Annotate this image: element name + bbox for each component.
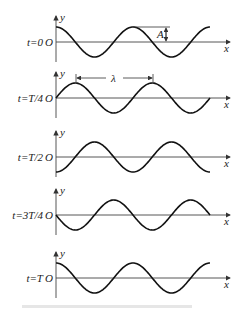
x-axis-label: x <box>223 278 229 290</box>
origin-label: O <box>45 209 53 221</box>
y-axis-label: y <box>59 11 65 23</box>
x-axis-label: x <box>223 157 229 169</box>
y-axis-label: y <box>59 67 65 79</box>
time-label: t=T <box>26 272 43 284</box>
x-axis-label: x <box>223 215 229 227</box>
y-axis-label: y <box>59 184 65 196</box>
origin-label: O <box>45 272 53 284</box>
wave-diagram: yxOt=0yxOt=T/4yxOt=T/2yxOt=3T/4yxOt=TAλ <box>0 0 243 316</box>
origin-label: O <box>45 92 53 104</box>
time-label: t=T/4 <box>18 92 44 104</box>
y-axis-label: y <box>59 126 65 138</box>
x-axis-label: x <box>223 42 229 54</box>
x-axis-label: x <box>223 98 229 110</box>
time-label: t=3T/4 <box>12 209 43 221</box>
wavelength-label: λ <box>110 72 116 84</box>
time-label: t=0 <box>27 36 43 48</box>
time-label: t=T/2 <box>18 151 44 163</box>
amplitude-label: A <box>156 28 164 40</box>
y-axis-label: y <box>59 247 65 259</box>
origin-label: O <box>45 36 53 48</box>
origin-label: O <box>45 151 53 163</box>
figure-caption-faded <box>22 305 192 308</box>
